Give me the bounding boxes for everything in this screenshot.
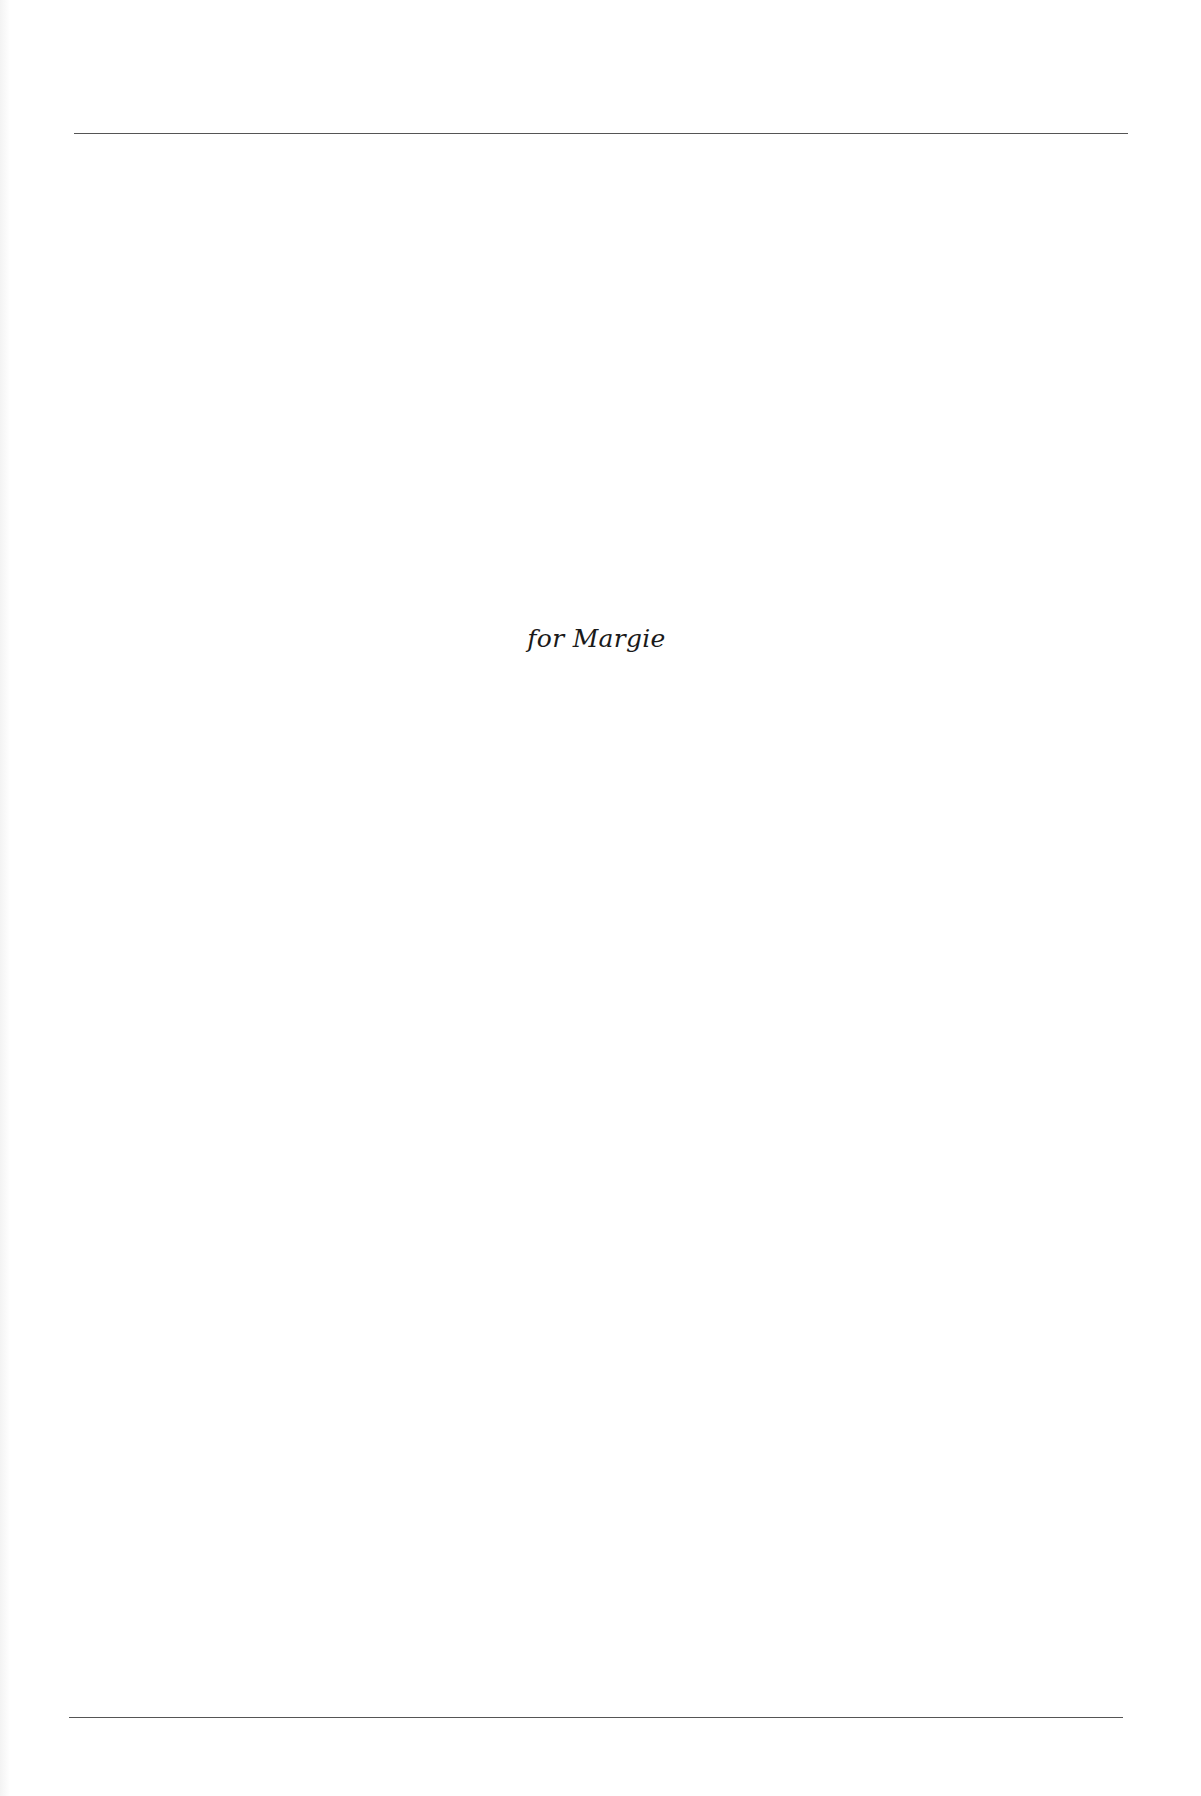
page-edge-shadow: [0, 0, 10, 1796]
bottom-horizontal-rule: [69, 1717, 1123, 1718]
top-horizontal-rule: [74, 133, 1128, 134]
dedication-text: for Margie: [0, 624, 1193, 653]
